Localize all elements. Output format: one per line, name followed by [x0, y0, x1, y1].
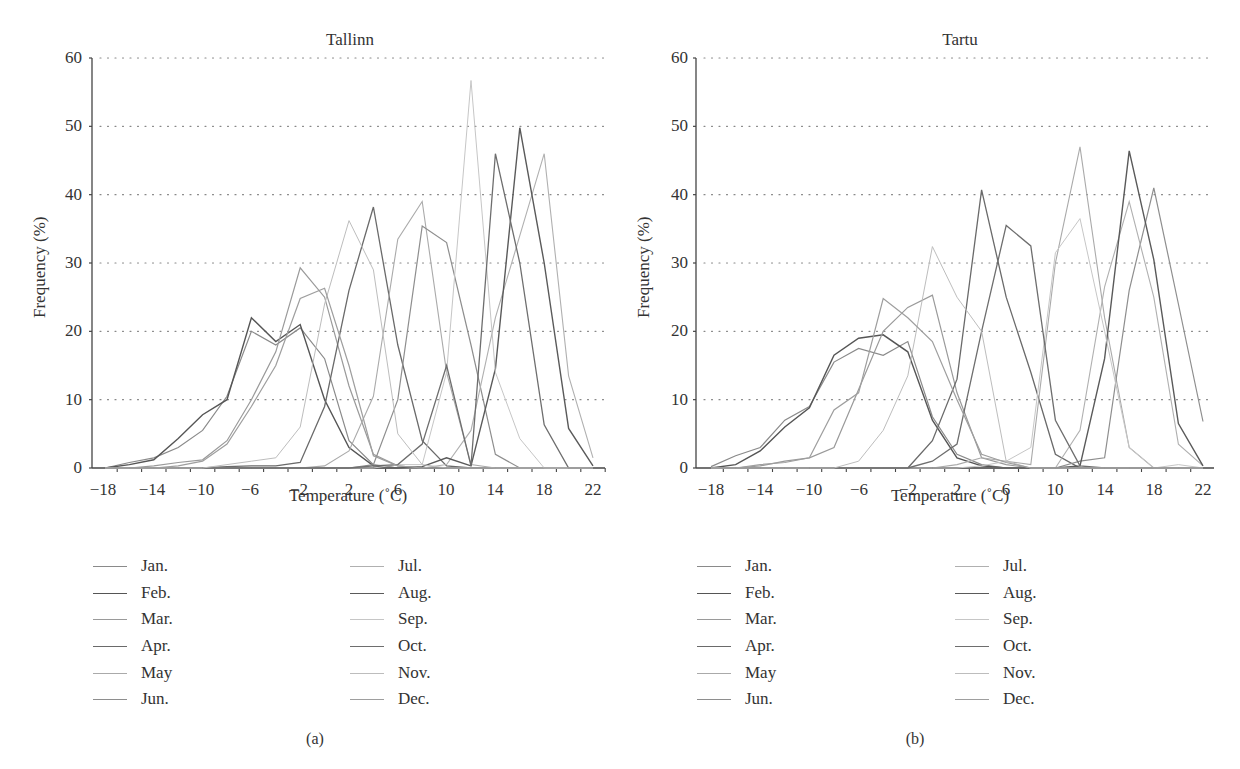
- y-tick-label: 40: [52, 185, 82, 205]
- legend-label: Jul.: [398, 556, 422, 576]
- x-tick-label: 18: [1146, 480, 1163, 500]
- y-axis-label: Frequency (%): [634, 217, 654, 319]
- series-line-sep: [105, 81, 593, 469]
- legend-label: Jun.: [141, 689, 169, 709]
- y-tick-label: 50: [658, 116, 688, 136]
- x-tick-label: −10: [188, 480, 215, 500]
- legend-item-mar: Mar.: [697, 609, 777, 629]
- legend-item-oct: Oct.: [955, 636, 1032, 656]
- legend-swatch: [350, 673, 384, 674]
- panel-label: (b): [906, 730, 925, 748]
- legend-swatch: [697, 619, 731, 620]
- series-line-oct: [711, 225, 1203, 468]
- y-tick-label: 10: [52, 390, 82, 410]
- x-axis-label: Temperature (˚C): [891, 486, 1009, 506]
- legend-swatch: [93, 699, 127, 700]
- legend-swatch: [93, 646, 127, 647]
- legend-label: Mar.: [141, 609, 173, 629]
- x-tick-label: 14: [487, 480, 504, 500]
- legend-label: May: [745, 663, 776, 683]
- series-line-jul: [105, 154, 593, 468]
- x-tick-label: −18: [90, 480, 117, 500]
- x-tick-label: 18: [536, 480, 553, 500]
- panel-label: (a): [306, 730, 324, 748]
- legend-item-dec: Dec.: [955, 689, 1035, 709]
- series-line-nov: [105, 221, 593, 468]
- legend-swatch: [955, 673, 989, 674]
- legend-swatch: [697, 699, 731, 700]
- series-line-jun: [711, 188, 1203, 468]
- legend-item-jul: Jul.: [955, 556, 1027, 576]
- legend-label: Dec.: [1003, 689, 1035, 709]
- legend-item-jan: Jan.: [93, 556, 168, 576]
- legend-swatch: [350, 619, 384, 620]
- legend-item-nov: Nov.: [350, 663, 430, 683]
- legend-swatch: [697, 646, 731, 647]
- legend-item-sep: Sep.: [955, 609, 1033, 629]
- y-tick-label: 30: [52, 253, 82, 273]
- legend-swatch: [93, 673, 127, 674]
- y-tick-label: 50: [52, 116, 82, 136]
- legend-swatch: [955, 646, 989, 647]
- legend-label: Dec.: [398, 689, 430, 709]
- legend-swatch: [697, 673, 731, 674]
- legend-label: Aug.: [1003, 583, 1037, 603]
- legend-item-oct: Oct.: [350, 636, 427, 656]
- x-tick-label: −10: [796, 480, 823, 500]
- legend-swatch: [955, 593, 989, 594]
- legend-item-mar: Mar.: [93, 609, 173, 629]
- legend-swatch: [350, 566, 384, 567]
- series-line-apr: [105, 207, 593, 468]
- legend-label: Jun.: [745, 689, 773, 709]
- series-line-may: [105, 202, 593, 469]
- series-line-jan: [711, 342, 1203, 468]
- y-tick-label: 10: [658, 390, 688, 410]
- x-tick-label: −14: [139, 480, 166, 500]
- y-tick-label: 0: [52, 458, 82, 478]
- legend-label: Feb.: [745, 583, 775, 603]
- legend-item-may: May: [697, 663, 776, 683]
- series-line-aug: [105, 128, 593, 468]
- series-line-sep: [711, 219, 1203, 468]
- series-line-oct: [105, 154, 593, 468]
- legend-label: Sep.: [398, 609, 428, 629]
- legend-swatch: [350, 699, 384, 700]
- plot-area-tallinn: [0, 0, 620, 500]
- legend-swatch: [93, 566, 127, 567]
- legend-swatch: [350, 646, 384, 647]
- y-axis-label: Frequency (%): [30, 217, 50, 319]
- chart-title: Tallinn: [326, 30, 374, 50]
- legend-label: Oct.: [1003, 636, 1032, 656]
- x-tick-label: 10: [1047, 480, 1064, 500]
- legend-label: Feb.: [141, 583, 171, 603]
- series-line-feb: [105, 318, 593, 468]
- series-line-jul: [711, 202, 1203, 469]
- legend-swatch: [350, 593, 384, 594]
- x-tick-label: 10: [438, 480, 455, 500]
- legend-label: Jul.: [1003, 556, 1027, 576]
- x-tick-label: −18: [698, 480, 725, 500]
- legend-item-dec: Dec.: [350, 689, 430, 709]
- plot-area-tartu: [620, 0, 1240, 500]
- y-tick-label: 60: [658, 48, 688, 68]
- x-axis-label: Temperature (˚C): [289, 486, 407, 506]
- legend-item-aug: Aug.: [955, 583, 1037, 603]
- legend-swatch: [955, 619, 989, 620]
- legend-item-sep: Sep.: [350, 609, 428, 629]
- legend-swatch: [93, 593, 127, 594]
- legend-item-nov: Nov.: [955, 663, 1035, 683]
- panel-tartu: Tartu Frequency (%) 0 10 20 30 40 50 60 …: [620, 0, 1240, 769]
- legend-item-jun: Jun.: [697, 689, 773, 709]
- legend-item-feb: Feb.: [93, 583, 171, 603]
- legend-label: Apr.: [141, 636, 171, 656]
- legend-label: Nov.: [398, 663, 430, 683]
- legend-item-may: May: [93, 663, 172, 683]
- legend-label: Sep.: [1003, 609, 1033, 629]
- y-tick-label: 20: [658, 321, 688, 341]
- y-tick-label: 0: [658, 458, 688, 478]
- legend-label: Jan.: [141, 556, 168, 576]
- legend-label: Nov.: [1003, 663, 1035, 683]
- legend-swatch: [955, 566, 989, 567]
- legend-item-jun: Jun.: [93, 689, 169, 709]
- legend-swatch: [697, 593, 731, 594]
